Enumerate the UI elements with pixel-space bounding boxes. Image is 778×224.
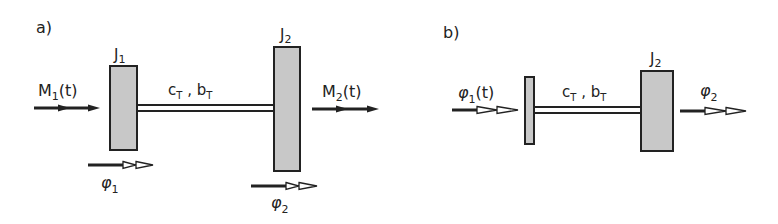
panel-b-label: b) bbox=[443, 23, 459, 42]
disk-j2 bbox=[274, 47, 300, 171]
j2-label: J2 bbox=[649, 50, 661, 70]
angle-arrow-icon bbox=[452, 107, 518, 114]
output-angle-label: φ2 bbox=[700, 81, 718, 104]
torque-arrow-icon bbox=[34, 105, 100, 112]
angle-arrow-icon bbox=[680, 108, 746, 115]
thin-disk bbox=[525, 77, 534, 144]
angle2-label: φ2 bbox=[271, 193, 289, 216]
angle-arrow-icon bbox=[251, 183, 317, 190]
panel-a: a) J1 cT , bT J2 M1(t) M2(t) bbox=[34, 18, 379, 216]
input-torque-label: M1(t) bbox=[38, 81, 78, 103]
shaft-params-label: cT , bT bbox=[562, 83, 607, 103]
panel-b: b) cT , bT J2 φ1(t) φ2 bbox=[443, 23, 746, 151]
disk-j2 bbox=[641, 71, 673, 151]
angle1-label: φ1 bbox=[101, 173, 119, 196]
input-angle-label: φ1(t) bbox=[458, 83, 494, 106]
diagram-canvas: a) J1 cT , bT J2 M1(t) M2(t) bbox=[0, 0, 778, 224]
angle-arrow-icon bbox=[88, 162, 153, 169]
disk-j1 bbox=[110, 66, 137, 150]
panel-a-label: a) bbox=[36, 18, 52, 37]
j2-label: J2 bbox=[279, 26, 291, 46]
torque-arrow-icon bbox=[312, 106, 379, 113]
output-torque-label: M2(t) bbox=[322, 82, 362, 104]
j1-label: J1 bbox=[113, 46, 125, 66]
shaft-params-label: cT , bT bbox=[168, 81, 213, 101]
